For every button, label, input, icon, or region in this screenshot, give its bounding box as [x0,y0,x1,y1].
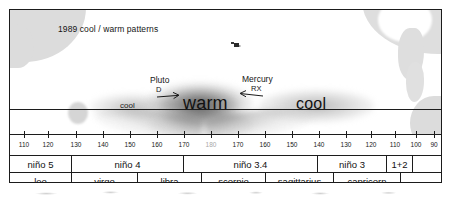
axis-tick-label: 130 [71,141,82,148]
zodiac-cell-empty [401,173,441,183]
landmass-indonesia-icon [10,24,34,68]
landmass-gulf-cutout-icon [378,10,432,42]
zodiac-row: leovirgolibrascorpiosagittariuscapricorn [10,172,441,183]
axis-tick-mark [395,131,396,138]
axis-tick-mark [238,131,239,138]
label-warm-center: warm [183,93,228,114]
axis-tick-mark [319,131,320,138]
longitude-axis: 1101201301401501601701801701601501401301… [10,134,441,155]
landmass-isthmus-icon [406,62,424,102]
axis-tick-mark [48,131,49,138]
axis-tick-mark [434,131,435,138]
axis-tick-mark [103,131,104,138]
zodiac-cell-virgo: virgo [72,173,138,183]
arrow-left-icon [237,90,263,99]
axis-tick-mark [346,131,347,138]
axis-tick-label: 120 [43,141,54,148]
axis-tick-label: 140 [98,141,109,148]
label-cool-east: cool [296,95,326,113]
axis-tick-label: 170 [233,141,244,148]
scan-artifact [12,190,440,196]
landmass-asia-northwest-icon [10,10,86,62]
axis-tick-label: 110 [19,141,29,148]
axis-tick-label: 130 [341,141,352,148]
landmass-island-dot-icon [68,102,88,124]
landmass-south-america-icon [410,96,441,135]
figure-root: 1989 cool / warm patterns cool warm cool… [0,0,451,200]
nino-cell-empty [413,156,441,172]
axis-tick-mark [211,131,212,138]
axis-tick-mark [130,131,131,138]
zodiac-cell-capricorn: capricorn [334,173,401,183]
axis-tick-label: 90 [430,141,437,148]
axis-tick-label: 150 [287,141,298,148]
axis-tick-mark [416,131,417,138]
nino-region-row: niño 5niño 4niño 3.4niño 31+2 [10,155,441,172]
landmass-north-america-icon [362,10,441,54]
nino-cell-1-2: 1+2 [387,156,413,172]
axis-tick-label: 170 [179,141,190,148]
nino-cell-ni-o-5: niño 5 [10,156,72,172]
axis-tick-label: 110 [390,141,400,148]
axis-tick-label: 150 [125,141,136,148]
nino-cell-ni-o-4: niño 4 [72,156,184,172]
annotation-pluto-name: Pluto [150,75,169,85]
label-cool-west: cool [120,101,135,110]
axis-tick-mark [265,131,266,138]
annotation-mercury-name: Mercury [242,74,273,84]
longitude-axis-line [10,134,441,135]
axis-tick-label: 120 [366,141,377,148]
nino-cell-ni-o-3: niño 3 [318,156,387,172]
zodiac-cell-scorpio: scorpio [202,173,266,183]
axis-tick-mark [24,131,25,138]
map-frame: 1989 cool / warm patterns cool warm cool… [9,9,442,183]
axis-tick-mark [76,131,77,138]
axis-tick-label: 160 [260,141,271,148]
axis-tick-mark [371,131,372,138]
figure-title: 1989 cool / warm patterns [58,24,158,34]
axis-tick-mark [157,131,158,138]
zodiac-cell-leo: leo [10,173,72,183]
landmass-central-america-icon [398,28,424,80]
axis-tick-label: 180 [206,141,217,148]
zodiac-cell-libra: libra [138,173,202,183]
axis-tick-label: 160 [152,141,163,148]
arrow-right-icon [157,92,183,101]
axis-tick-mark [292,131,293,138]
axis-tick-mark [184,131,185,138]
ocean-map-panel: 1989 cool / warm patterns cool warm cool… [10,10,441,135]
zodiac-cell-sagittarius: sagittarius [266,173,334,183]
axis-tick-label: 140 [314,141,325,148]
nino-cell-ni-o-3-4: niño 3.4 [184,156,318,172]
axis-tick-label: 100 [411,141,422,148]
map-marker-speck-icon [234,43,239,47]
